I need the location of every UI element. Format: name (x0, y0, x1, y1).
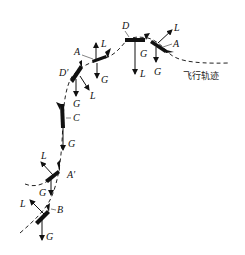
label-point-a-right: A (172, 38, 180, 49)
label-point-a-upper: A (73, 46, 81, 57)
label-g: G (46, 231, 53, 242)
label-point-d: D (121, 20, 130, 31)
label-l: L (89, 90, 96, 101)
label-l: L (19, 198, 26, 209)
label-l: L (173, 22, 180, 33)
plane-a-upper: L G A (73, 38, 111, 85)
plane-a-prime: L G A′ (39, 150, 76, 198)
label-l: L (40, 150, 47, 161)
lift-vector (30, 200, 44, 214)
label-g: G (73, 98, 80, 109)
label-g: G (39, 187, 46, 198)
label-point-c: C (73, 112, 80, 123)
label-point-d-prime: D′ (58, 67, 69, 78)
lift-vector (41, 162, 53, 175)
label-point-b: B (57, 204, 63, 215)
trajectory-label: 飞行轨迹 (183, 70, 219, 81)
plane-d: G L D (121, 20, 150, 79)
label-l: L (139, 68, 146, 79)
flight-trajectory-diagram: L G B L G A′ G C G L D′ L G (0, 0, 245, 255)
label-point-a-prime: A′ (66, 169, 76, 180)
label-l: L (100, 38, 107, 49)
plane-b: L G B (19, 198, 63, 242)
label-g: G (68, 138, 75, 149)
label-g: G (101, 74, 108, 85)
label-g: G (154, 66, 161, 77)
label-g: G (140, 48, 147, 59)
lift-vector (158, 30, 172, 43)
plane-d-prime: G L D′ (58, 60, 96, 109)
plane-a-right: L G A (150, 22, 180, 77)
flight-path (20, 37, 228, 233)
lift-vector (80, 76, 89, 90)
